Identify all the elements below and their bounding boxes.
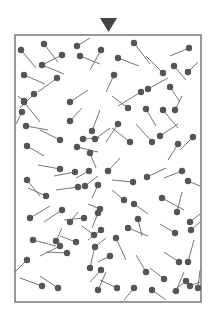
molecule-tail — [188, 240, 194, 262]
molecule-head — [64, 250, 70, 256]
molecule-head — [185, 259, 191, 265]
lipid-molecule — [60, 236, 79, 245]
lipid-molecule — [90, 47, 104, 70]
molecule-head — [159, 195, 165, 201]
lipid-molecule — [185, 62, 198, 75]
molecule-head — [171, 63, 177, 69]
molecule-head — [21, 72, 27, 78]
molecule-tail — [118, 58, 139, 66]
molecule-head — [187, 219, 193, 225]
lipid-molecule — [23, 123, 48, 130]
molecule-tail — [160, 124, 178, 136]
molecule-tail — [24, 75, 45, 84]
molecule-tail — [128, 228, 148, 236]
molecule-tail — [112, 128, 130, 142]
lipid-molecule — [30, 237, 56, 246]
lipid-molecule — [24, 177, 40, 196]
molecule-tail — [42, 65, 64, 74]
lipid-molecule — [171, 63, 186, 80]
molecule-head — [107, 253, 113, 259]
lipid-molecule — [136, 255, 149, 275]
lipid-molecule — [160, 224, 178, 236]
molecule-head — [95, 182, 101, 188]
molecule-head — [175, 141, 181, 147]
lipid-molecule — [92, 238, 106, 250]
molecule-tail — [20, 278, 42, 286]
lipid-molecule — [167, 84, 180, 102]
molecule-head — [77, 53, 83, 59]
molecule-head — [72, 169, 78, 175]
molecule-head — [149, 287, 155, 293]
lipid-molecule — [82, 226, 97, 238]
molecule-head — [172, 230, 178, 236]
lipid-molecule — [67, 108, 82, 124]
lipid-molecule — [164, 168, 185, 178]
molecule-head — [53, 238, 59, 244]
molecule-head — [125, 105, 131, 111]
lipid-molecule — [124, 285, 137, 300]
molecule-head — [59, 207, 65, 213]
lipid-molecule — [173, 272, 184, 294]
molecule-head — [30, 237, 36, 243]
molecule-tail — [162, 198, 184, 210]
lipid-molecule — [185, 178, 200, 186]
molecule-head — [98, 227, 104, 233]
molecule-tail — [38, 165, 60, 169]
molecule-tail — [33, 240, 56, 246]
molecule-tail — [70, 90, 88, 102]
molecule-head — [130, 179, 136, 185]
molecule-head — [92, 136, 98, 142]
molecule-head — [24, 177, 30, 183]
molecule-tail — [21, 50, 36, 68]
molecule-head — [91, 232, 97, 238]
lipid-molecule — [105, 158, 120, 174]
molecule-head — [54, 75, 60, 81]
molecule-tail — [44, 210, 62, 222]
molecule-head — [98, 267, 104, 273]
molecule-head — [143, 106, 149, 112]
molecule-head — [131, 40, 137, 46]
lipid-molecule — [27, 206, 50, 221]
molecule-head — [176, 259, 182, 265]
molecule-head — [31, 91, 37, 97]
molecule-head — [80, 136, 86, 142]
lipid-molecule — [89, 110, 100, 134]
molecule-head — [95, 287, 101, 293]
molecule-head — [21, 99, 27, 105]
down-arrow-icon — [100, 18, 117, 32]
molecule-head — [89, 128, 95, 134]
molecule-tail — [30, 206, 50, 218]
molecule-tail — [136, 124, 152, 142]
molecule-tail — [24, 102, 40, 122]
lipid-molecule — [159, 195, 184, 210]
lipid-molecule — [92, 182, 101, 198]
molecule-head — [27, 215, 33, 221]
lipid-molecule — [76, 168, 92, 178]
lipid-molecule — [115, 55, 139, 66]
lipid-molecule — [21, 72, 45, 84]
molecule-tail — [56, 187, 78, 190]
molecule-head — [82, 183, 88, 189]
lipid-molecule — [44, 207, 65, 222]
lipid-molecule — [74, 144, 98, 152]
lipid-molecule — [170, 45, 192, 56]
molecule-tail — [54, 172, 75, 176]
lipid-molecule — [149, 287, 166, 300]
molecule-head — [114, 285, 120, 291]
lipid-molecule — [16, 109, 25, 124]
lipid-molecule — [39, 62, 64, 74]
lipid-molecule — [174, 192, 182, 215]
molecule-head — [59, 52, 65, 58]
lipid-molecule — [67, 90, 88, 105]
lipid-molecule — [15, 257, 30, 272]
molecule-tail — [40, 246, 60, 256]
molecule-head — [19, 109, 25, 115]
molecule-head — [127, 139, 133, 145]
molecule-head — [95, 210, 101, 216]
lipid-molecule — [98, 253, 113, 262]
molecule-head — [115, 121, 121, 127]
lipid-molecule — [145, 78, 168, 92]
lipid-molecule — [100, 280, 120, 291]
lipid-molecule — [24, 143, 44, 156]
molecule-head — [185, 178, 191, 184]
